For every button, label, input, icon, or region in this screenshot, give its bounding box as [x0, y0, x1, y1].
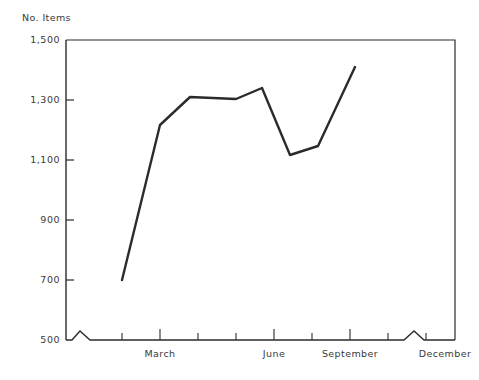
- y-axis-ticks: [66, 100, 74, 280]
- x-axis-line-with-breaks: [66, 331, 455, 340]
- line-chart: No. Items 1,500 1,300 1,100 900 700 500 …: [0, 0, 479, 380]
- plot-area: [0, 0, 479, 380]
- x-axis-ticks: [122, 329, 426, 340]
- plot-frame-top-right: [66, 40, 455, 340]
- data-series-line: [122, 67, 355, 280]
